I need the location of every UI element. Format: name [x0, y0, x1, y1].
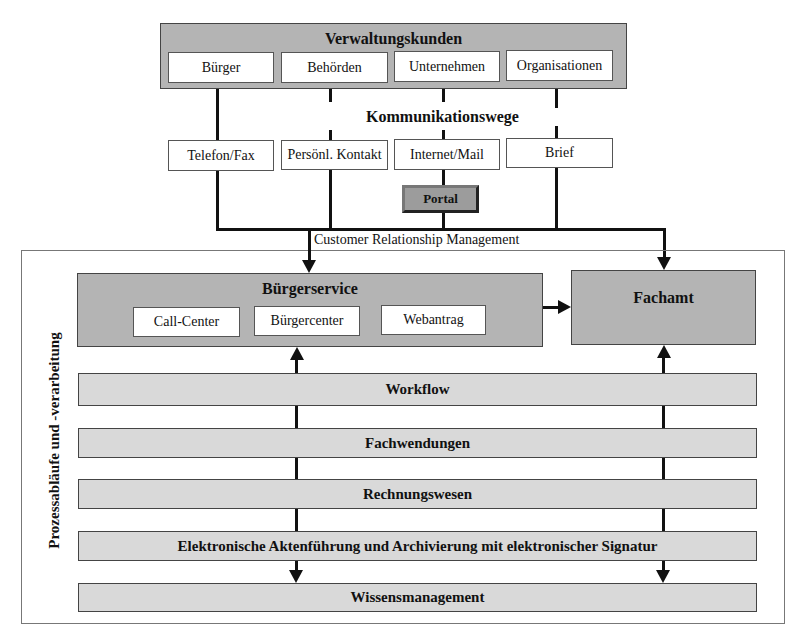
arrow-down-icon	[289, 570, 303, 583]
service-webantrag[interactable]: Webantrag	[381, 305, 486, 335]
layer-wissensmanagement[interactable]: Wissensmanagement	[78, 583, 757, 612]
buergerservice-title: Bürgerservice	[78, 280, 542, 298]
connector-line	[295, 359, 298, 373]
channel-brief[interactable]: Brief	[506, 138, 613, 168]
connector-line	[662, 406, 665, 428]
arrow-down-icon	[302, 260, 316, 273]
connector-line	[442, 89, 445, 102]
service-call-center[interactable]: Call-Center	[133, 307, 240, 337]
connector-line	[216, 171, 219, 231]
connector-line	[295, 509, 298, 531]
connector-line	[555, 168, 558, 231]
channel-persoenl-kontakt[interactable]: Persönl. Kontakt	[281, 140, 388, 170]
layer-rechnungswesen[interactable]: Rechnungswesen	[78, 479, 757, 509]
connector-line	[308, 228, 311, 262]
channel-telefon-fax[interactable]: Telefon/Fax	[168, 140, 274, 171]
service-buergercenter[interactable]: Bürgercenter	[254, 306, 360, 336]
crm-label: Customer Relationship Management	[311, 231, 519, 248]
customer-behoerden[interactable]: Behörden	[281, 52, 388, 83]
customer-buerger[interactable]: Bürger	[168, 52, 274, 83]
connector-line	[216, 89, 219, 140]
fachamt-box[interactable]: Fachamt	[571, 270, 756, 345]
channels-title: Kommunikationswege	[300, 108, 585, 126]
layer-fachwendungen[interactable]: Fachwendungen	[78, 428, 757, 458]
channel-internet-mail[interactable]: Internet/Mail	[394, 139, 500, 170]
layer-aktenfuehrung[interactable]: Elektronische Aktenführung und Archivier…	[78, 531, 757, 561]
connector-line	[442, 170, 445, 185]
connector-line	[329, 170, 332, 231]
connector-line	[662, 509, 665, 531]
arrow-right-icon	[558, 300, 571, 314]
connector-line	[329, 89, 332, 102]
connector-line	[329, 130, 332, 140]
connector-line	[662, 357, 665, 373]
layer-workflow[interactable]: Workflow	[78, 373, 757, 406]
process-side-label: Prozessabläufe und -verarbeitung	[46, 311, 63, 571]
customers-title: Verwaltungskunden	[161, 30, 626, 48]
fachamt-title: Fachamt	[633, 289, 693, 307]
portal-box[interactable]: Portal	[402, 185, 479, 213]
connector-line	[543, 306, 559, 309]
arrow-down-icon	[656, 570, 670, 583]
connector-line	[295, 458, 298, 479]
connector-line	[442, 130, 445, 139]
customer-unternehmen[interactable]: Unternehmen	[394, 51, 500, 82]
customer-organisationen[interactable]: Organisationen	[506, 50, 613, 81]
connector-line	[662, 458, 665, 479]
connector-line	[295, 406, 298, 428]
